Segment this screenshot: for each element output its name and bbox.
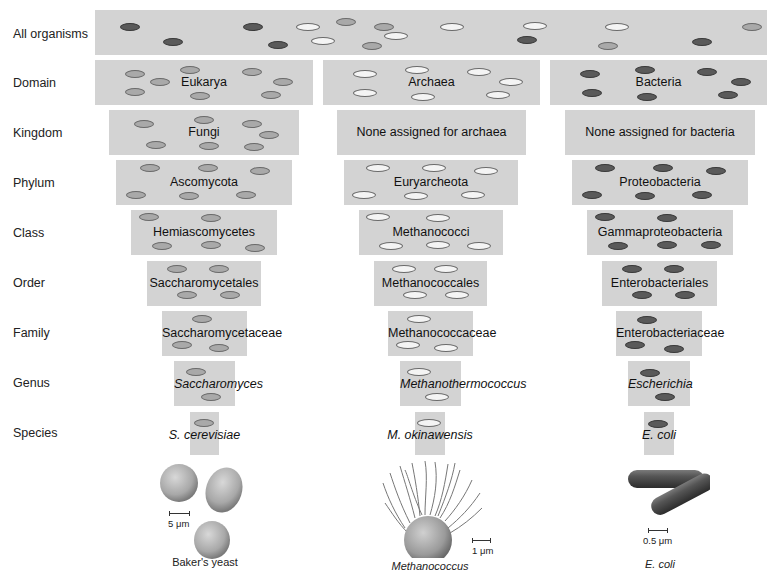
order-box-saccharomycetales: Saccharomycetales bbox=[147, 261, 261, 306]
kingdom-box-fungi: Fungi bbox=[109, 110, 299, 155]
family-label-enterobacteriaceae: Enterobacteriaceae bbox=[616, 326, 702, 340]
family-label-methanococcaceae: Methanococcaceae bbox=[388, 326, 473, 340]
genus-label-methanothermococcus: Methanothermococcus bbox=[400, 377, 461, 391]
genus-label-escherichia: Escherichia bbox=[628, 377, 690, 391]
yeast-scale-bar bbox=[169, 511, 190, 516]
domain-box-archaea: Archaea bbox=[323, 60, 540, 105]
e-coli-caption: E. coli bbox=[625, 558, 695, 570]
genus-box-escherichia: Escherichia bbox=[628, 361, 690, 406]
order-label-methanococcales: Methanococcales bbox=[374, 276, 487, 290]
family-box-saccharomycetaceae: Saccharomycetaceae bbox=[162, 311, 247, 356]
methanococcus-scale-label: 1 μm bbox=[472, 545, 493, 556]
methanococcus-scale-bar bbox=[472, 538, 491, 543]
phylum-label-proteobacteria: Proteobacteria bbox=[572, 175, 748, 189]
order-label-enterobacteriales: Enterobacteriales bbox=[602, 276, 717, 290]
rank-order: Order bbox=[13, 276, 45, 290]
family-box-enterobacteriaceae: Enterobacteriaceae bbox=[616, 311, 702, 356]
phylum-box-ascomycota: Ascomycota bbox=[116, 160, 292, 205]
phylum-box-proteobacteria: Proteobacteria bbox=[572, 160, 748, 205]
phylum-label-ascomycota: Ascomycota bbox=[116, 175, 292, 189]
class-box-hemiascomycetes: Hemiascomycetes bbox=[131, 210, 277, 255]
rank-class: Class bbox=[13, 226, 44, 240]
methanococcus-caption: Methanococcus bbox=[385, 560, 475, 572]
order-box-methanococcales: Methanococcales bbox=[374, 261, 487, 306]
rank-domain: Domain bbox=[13, 76, 56, 90]
rank-all-organisms: All organisms bbox=[13, 27, 88, 41]
all-organisms-box bbox=[95, 10, 767, 55]
family-box-methanococcaceae: Methanococcaceae bbox=[388, 311, 473, 356]
rank-genus: Genus bbox=[13, 376, 50, 390]
domain-box-eukarya: Eukarya bbox=[95, 60, 313, 105]
kingdom-label-bacteria: None assigned for bacteria bbox=[565, 125, 755, 139]
genus-box-saccharomyces: Saccharomyces bbox=[174, 361, 235, 406]
class-label-methanococci: Methanococci bbox=[359, 225, 503, 239]
species-box-m-okinawensis: M. okinawensis bbox=[415, 412, 445, 455]
genus-label-saccharomyces: Saccharomyces bbox=[174, 377, 235, 391]
domain-box-bacteria: Bacteria bbox=[550, 60, 767, 105]
species-box-s-cerevisiae: S. cerevisiae bbox=[190, 412, 219, 455]
rank-species: Species bbox=[13, 426, 57, 440]
kingdom-box-bacteria: None assigned for bacteria bbox=[565, 110, 755, 155]
rank-phylum: Phylum bbox=[13, 176, 55, 190]
family-label-saccharomycetaceae: Saccharomycetaceae bbox=[162, 326, 247, 340]
class-box-gammaproteobacteria: Gammaproteobacteria bbox=[587, 210, 733, 255]
order-label-saccharomycetales: Saccharomycetales bbox=[147, 276, 261, 290]
phylum-label-euryarcheota: Euryarcheota bbox=[344, 175, 518, 189]
yeast-scale-label: 5 μm bbox=[168, 518, 189, 529]
methanococcus-illustration bbox=[380, 458, 490, 558]
order-box-enterobacteriales: Enterobacteriales bbox=[602, 261, 717, 306]
class-label-hemiascomycetes: Hemiascomycetes bbox=[131, 225, 277, 239]
rank-kingdom: Kingdom bbox=[13, 126, 62, 140]
rank-family: Family bbox=[13, 326, 50, 340]
e-coli-illustration bbox=[610, 460, 710, 520]
class-label-gammaproteobacteria: Gammaproteobacteria bbox=[587, 225, 733, 239]
yeast-cells-illustration bbox=[150, 460, 250, 565]
e-coli-scale-bar bbox=[648, 528, 668, 533]
e-coli-scale-label: 0.5 μm bbox=[643, 535, 672, 546]
species-box-e-coli: E. coli bbox=[644, 412, 674, 455]
species-label-s-cerevisiae: S. cerevisiae bbox=[150, 428, 259, 442]
species-label-e-coli: E. coli bbox=[604, 428, 714, 442]
class-box-methanococci: Methanococci bbox=[359, 210, 503, 255]
genus-box-methanothermococcus: Methanothermococcus bbox=[400, 361, 461, 406]
yeast-caption: Baker's yeast bbox=[155, 556, 255, 568]
kingdom-box-archaea: None assigned for archaea bbox=[337, 110, 526, 155]
species-label-m-okinawensis: M. okinawensis bbox=[375, 428, 485, 442]
kingdom-label-archaea: None assigned for archaea bbox=[337, 125, 526, 139]
phylum-box-euryarcheota: Euryarcheota bbox=[344, 160, 518, 205]
